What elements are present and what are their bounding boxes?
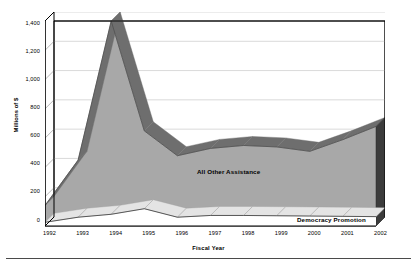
x-tick-label: 1998 bbox=[242, 231, 255, 237]
series-annotation-all-other-assistance: All Other Assistance bbox=[197, 168, 260, 175]
x-tick-label: 2001 bbox=[341, 231, 354, 237]
series-annotation-democracy-promotion: Democracy Promotion bbox=[297, 216, 366, 223]
chart-figure: 1,400 1,200 1,000 800 600 400 200 0 Mill… bbox=[0, 0, 417, 269]
x-tick-label: 1994 bbox=[109, 231, 122, 237]
y-tick-label: 1,000 bbox=[6, 77, 40, 83]
x-tick-label: 1996 bbox=[175, 231, 188, 237]
x-tick-label: 2000 bbox=[308, 231, 321, 237]
x-tick-label: 2002 bbox=[374, 231, 387, 237]
y-axis-title: Millions of $ bbox=[13, 85, 19, 145]
bottom-divider bbox=[6, 258, 411, 259]
x-tick-label: 1999 bbox=[275, 231, 288, 237]
y-tick-label: 1,400 bbox=[6, 21, 40, 27]
plot-area bbox=[45, 12, 385, 227]
x-axis-title: Fiscal Year bbox=[0, 245, 417, 251]
area-chart-svg bbox=[45, 12, 385, 227]
x-tick-label: 1992 bbox=[43, 231, 56, 237]
x-tick-label: 1993 bbox=[76, 231, 89, 237]
y-tick-label: 600 bbox=[6, 133, 40, 139]
y-axis-tick-labels: 1,400 1,200 1,000 800 600 400 200 0 bbox=[0, 12, 40, 227]
y-tick-label: 0 bbox=[6, 218, 40, 224]
y-tick-label: 400 bbox=[6, 161, 40, 167]
x-tick-label: 1995 bbox=[142, 231, 155, 237]
y-tick-label: 800 bbox=[6, 105, 40, 111]
x-axis-tick-labels: 1992199319941995199619971998199920002001… bbox=[45, 231, 385, 243]
y-tick-label: 1,200 bbox=[6, 49, 40, 55]
y-tick-label: 200 bbox=[6, 189, 40, 195]
x-tick-label: 1997 bbox=[209, 231, 222, 237]
